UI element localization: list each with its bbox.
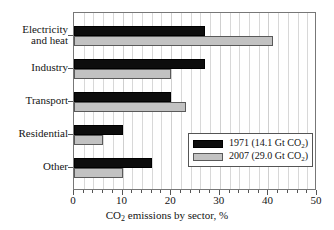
y-axis-tick (68, 167, 73, 168)
legend-item-1971: 1971 (14.1 Gt CO2) (193, 137, 308, 150)
bar-industry-2007 (74, 69, 171, 79)
y-axis-tick (68, 134, 73, 135)
bar-other-2007 (74, 168, 123, 178)
x-axis-minor-tick (83, 190, 84, 193)
bar-transport-2007 (74, 102, 186, 112)
legend-swatch-1971 (193, 140, 223, 148)
x-axis-tick-label: 50 (301, 194, 331, 206)
y-axis-tick (68, 68, 73, 69)
legend-item-2007: 2007 (29.0 Gt CO2) (193, 150, 308, 163)
bar-transport-1971 (74, 92, 171, 102)
x-axis-minor-tick (180, 190, 181, 193)
x-axis-minor-tick (151, 190, 152, 193)
x-axis-title: CO2 emissions by sector, % (0, 209, 334, 223)
bar-residential-1971 (74, 125, 123, 135)
x-axis-minor-tick (277, 190, 278, 193)
bar-industry-1971 (74, 59, 205, 69)
x-axis-minor-tick (92, 190, 93, 193)
x-axis-tick-label: 20 (155, 194, 185, 206)
x-axis-minor-tick (160, 190, 161, 193)
x-axis-minor-tick (297, 190, 298, 193)
x-axis-minor-tick (229, 190, 230, 193)
x-axis-minor-tick (141, 190, 142, 193)
x-axis-tick-label: 10 (107, 194, 137, 206)
y-axis-tick (68, 101, 73, 102)
bar-electricity-and-heat-1971 (74, 26, 205, 36)
y-axis-label-residential: Residential (19, 128, 69, 140)
y-axis-label-industry: Industry (31, 62, 68, 74)
x-axis-minor-tick (190, 190, 191, 193)
x-axis-minor-tick (112, 190, 113, 193)
x-axis-minor-tick (287, 190, 288, 193)
x-axis-minor-tick (199, 190, 200, 193)
x-axis-tick-label: 40 (252, 194, 282, 206)
x-axis-minor-tick (258, 190, 259, 193)
x-axis-tick-label: 30 (204, 194, 234, 206)
x-axis-minor-tick (238, 190, 239, 193)
legend-label-1971: 1971 (14.1 Gt CO2) (229, 137, 308, 150)
x-axis-minor-tick (102, 190, 103, 193)
legend-swatch-2007 (193, 153, 223, 161)
legend: 1971 (14.1 Gt CO2) 2007 (29.0 Gt CO2) (188, 133, 313, 167)
bar-residential-2007 (74, 135, 103, 145)
x-axis-minor-tick (209, 190, 210, 193)
x-axis-tick-label: 0 (58, 194, 88, 206)
x-axis-minor-tick (248, 190, 249, 193)
bar-electricity-and-heat-2007 (74, 36, 273, 46)
y-axis-label-transport: Transport (26, 95, 68, 107)
y-axis-tick (68, 35, 73, 36)
x-axis-minor-tick (306, 190, 307, 193)
y-axis-label-electricity-and-heat: Electricity and heat (22, 24, 68, 47)
bar-other-1971 (74, 158, 152, 168)
co2-emissions-by-sector-bar-chart: Electricity and heatIndustryTransportRes… (0, 0, 334, 230)
x-axis-minor-tick (131, 190, 132, 193)
legend-label-2007: 2007 (29.0 Gt CO2) (229, 150, 308, 163)
y-axis-label-other: Other (43, 161, 68, 173)
